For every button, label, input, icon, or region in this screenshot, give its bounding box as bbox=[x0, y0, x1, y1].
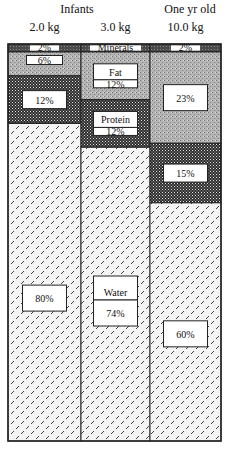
data-label-water-1: 74% bbox=[106, 308, 124, 319]
data-label-protein-0: 12% bbox=[35, 95, 53, 106]
series-name-fat: Fat bbox=[109, 67, 122, 78]
data-label-water-2: 60% bbox=[176, 329, 194, 340]
data-label-protein-1: 12% bbox=[106, 126, 124, 137]
series-name-protein: Protein bbox=[101, 114, 130, 125]
data-label-fat-2: 23% bbox=[176, 93, 194, 104]
data-label-protein-2: 15% bbox=[176, 168, 194, 179]
data-label-fat-1: 12% bbox=[106, 79, 124, 90]
series-name-water: Water bbox=[104, 287, 128, 298]
data-label-water-0: 80% bbox=[35, 293, 53, 304]
stacked-bar-chart: 2%6%12%80%MineralsFat12%Protein12%Water7… bbox=[0, 0, 230, 453]
data-label-fat-0: 6% bbox=[38, 55, 51, 66]
bar-segment-water-0 bbox=[8, 123, 81, 441]
